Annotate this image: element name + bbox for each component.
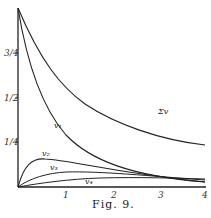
y-tick-label: 3/4 xyxy=(4,48,19,58)
y-tick-label: 1/4 xyxy=(4,137,19,147)
curve-sum-v xyxy=(18,8,205,145)
label-v2: v₂ xyxy=(42,149,50,158)
x-tick-label: 4 xyxy=(201,190,208,200)
x-tick-label: 3 xyxy=(158,190,164,200)
chart: 1/4 1/2 3/4 1 2 3 4 Σv v₁ v₂ v₃ v₄ xyxy=(0,0,211,218)
y-tick-label: 1/2 xyxy=(4,93,19,103)
x-tick-label: 1 xyxy=(63,190,69,200)
label-sum-v: Σv xyxy=(157,107,169,116)
label-v1: v₁ xyxy=(54,121,62,130)
label-v4: v₄ xyxy=(85,177,93,186)
label-v3: v₃ xyxy=(50,163,58,172)
figure-caption: Fig. 9. xyxy=(92,198,135,211)
